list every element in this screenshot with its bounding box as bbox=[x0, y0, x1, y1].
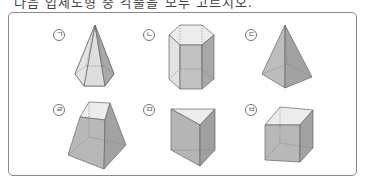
figure-label-3: ㄷ bbox=[245, 29, 257, 41]
question-text: 다음 입체도형 중 각뿔을 모두 고르시오. bbox=[14, 0, 253, 11]
square-frustum-figure bbox=[68, 100, 130, 170]
figure-label-1: ㄱ bbox=[53, 29, 65, 41]
figure-label-4: ㄹ bbox=[53, 104, 65, 116]
triangular-prism-figure bbox=[170, 108, 218, 168]
figure-label-6: ㅂ bbox=[245, 104, 257, 116]
hexagonal-prism-figure bbox=[168, 24, 220, 90]
figure-label-2: ㄴ bbox=[143, 29, 155, 41]
cube-figure bbox=[263, 106, 315, 164]
figure-label-5: ㅁ bbox=[143, 104, 155, 116]
hexagonal-pyramid-figure bbox=[70, 24, 120, 88]
square-pyramid-figure bbox=[260, 24, 316, 90]
